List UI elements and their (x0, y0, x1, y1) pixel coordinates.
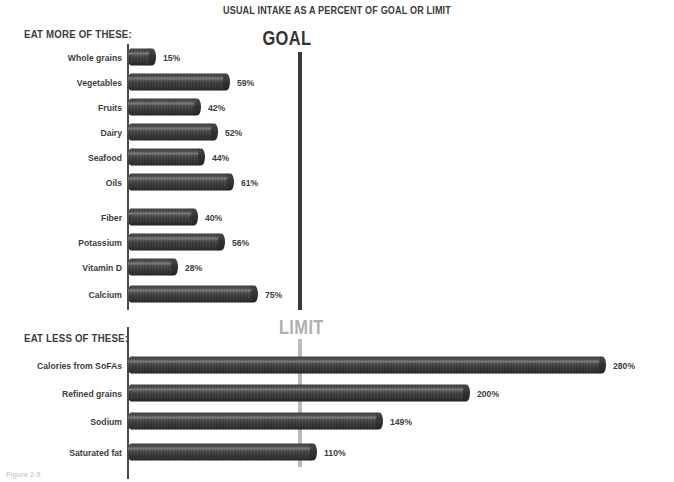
limit-reference-label: LIMIT (279, 316, 324, 339)
bar (128, 209, 196, 226)
bar-container: 200% (128, 385, 502, 402)
bar (128, 286, 256, 303)
bar-container: 110% (128, 444, 348, 461)
bar (128, 259, 176, 276)
bar (128, 413, 381, 430)
chart-canvas: USUAL INTAKE AS A PERCENT OF GOAL OR LIM… (0, 0, 674, 482)
bar-container: 44% (128, 149, 231, 166)
bar (128, 357, 604, 374)
bar-container: 280% (128, 357, 638, 374)
table-row: Calcium 75% (0, 282, 674, 306)
bar-container: 52% (128, 124, 245, 141)
table-row: Oils 61% (0, 170, 674, 194)
bar-value-label: 61% (241, 177, 258, 188)
table-row: Fruits 42% (0, 95, 674, 119)
chart-title: USUAL INTAKE AS A PERCENT OF GOAL OR LIM… (47, 4, 627, 16)
bar-container: 42% (128, 99, 228, 116)
bar (128, 385, 468, 402)
table-row: Vegetables 59% (0, 70, 674, 94)
bar-value-label: 75% (265, 289, 282, 300)
bar-container: 61% (128, 174, 260, 191)
bar-container: 28% (128, 259, 204, 276)
bar-container: 59% (128, 74, 257, 91)
row-label: Seafood (12, 152, 122, 163)
bar (128, 174, 232, 191)
table-row: Saturated fat 110% (0, 440, 674, 464)
row-label: Vegetables (12, 77, 122, 88)
bar-value-label: 40% (205, 212, 222, 223)
bar-value-label: 15% (163, 52, 180, 63)
bar (128, 74, 228, 91)
figure-caption: Figure 2-5 (6, 470, 40, 479)
table-row: Sodium 149% (0, 409, 674, 433)
row-label: Oils (12, 177, 122, 188)
row-label: Refined grains (12, 388, 122, 399)
row-label: Calories from SoFAs (12, 360, 122, 371)
bar-container: 149% (128, 413, 415, 430)
bar-value-label: 56% (232, 237, 249, 248)
bar (128, 149, 203, 166)
row-label: Fiber (12, 212, 122, 223)
row-label: Fruits (12, 102, 122, 113)
table-row: Calories from SoFAs 280% (0, 353, 674, 377)
table-row: Whole grains 15% (0, 45, 674, 69)
bar (128, 49, 154, 66)
bar-container: 56% (128, 234, 251, 251)
bar (128, 234, 223, 251)
row-label: Dairy (12, 127, 122, 138)
table-row: Vitamin D 28% (0, 255, 674, 279)
row-label: Whole grains (12, 52, 122, 63)
bar-container: 15% (128, 49, 182, 66)
section-header-eat-more: EAT MORE OF THESE: (24, 28, 132, 40)
bar-value-label: 44% (212, 152, 229, 163)
bar-container: 40% (128, 209, 224, 226)
table-row: Seafood 44% (0, 145, 674, 169)
table-row: Fiber 40% (0, 205, 674, 229)
bar-value-label: 280% (613, 360, 635, 371)
bar (128, 124, 216, 141)
bar (128, 444, 315, 461)
bar-value-label: 149% (390, 416, 412, 427)
row-label: Saturated fat (12, 447, 122, 458)
row-label: Vitamin D (12, 262, 122, 273)
bar-value-label: 200% (477, 388, 499, 399)
row-label: Potassium (12, 237, 122, 248)
bar-value-label: 110% (324, 447, 346, 458)
bar-value-label: 52% (225, 127, 242, 138)
row-label: Sodium (12, 416, 122, 427)
section-header-eat-less: EAT LESS OF THESE: (24, 332, 128, 344)
row-label: Calcium (12, 289, 122, 300)
bar-value-label: 42% (208, 102, 225, 113)
table-row: Dairy 52% (0, 120, 674, 144)
bar-container: 75% (128, 286, 284, 303)
bar-value-label: 28% (185, 262, 202, 273)
table-row: Refined grains 200% (0, 381, 674, 405)
table-row: Potassium 56% (0, 230, 674, 254)
bar-value-label: 59% (237, 77, 254, 88)
bar (128, 99, 199, 116)
